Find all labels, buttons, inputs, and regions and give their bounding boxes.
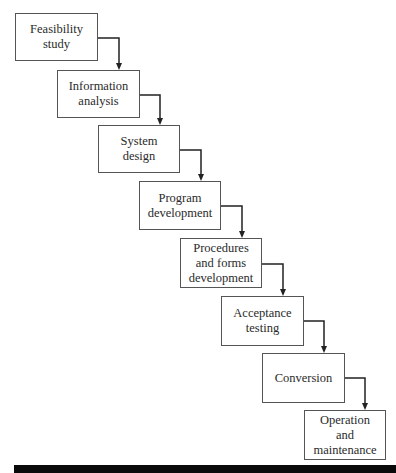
step-conversion: Conversion	[262, 353, 345, 403]
step-system-design: System design	[98, 125, 180, 173]
arrowhead-icon	[280, 289, 286, 296]
step-operation-and-maintenance: Operation and maintenance	[304, 410, 386, 460]
arrowhead-icon	[157, 118, 163, 125]
arrowhead-icon	[321, 346, 327, 353]
step-label: Operation and maintenance	[313, 413, 376, 458]
step-label: Procedures and forms development	[189, 241, 254, 286]
step-label: System design	[121, 134, 158, 164]
step-label: Acceptance testing	[233, 306, 291, 336]
arrowhead-icon	[198, 174, 204, 181]
arrowhead-icon	[362, 403, 368, 410]
arrowhead-icon	[239, 231, 245, 238]
bottom-rule	[14, 465, 396, 473]
step-information-analysis: Information analysis	[57, 70, 140, 118]
arrowhead-icon	[116, 63, 122, 70]
step-label: Information analysis	[69, 79, 129, 109]
step-program-development: Program development	[139, 181, 221, 230]
step-acceptance-testing: Acceptance testing	[221, 296, 304, 346]
step-label: Conversion	[275, 371, 333, 386]
step-procedures-and-forms-development: Procedures and forms development	[180, 238, 262, 288]
step-label: Feasibility study	[30, 22, 83, 52]
step-feasibility-study: Feasibility study	[15, 13, 98, 61]
step-label: Program development	[148, 191, 213, 221]
